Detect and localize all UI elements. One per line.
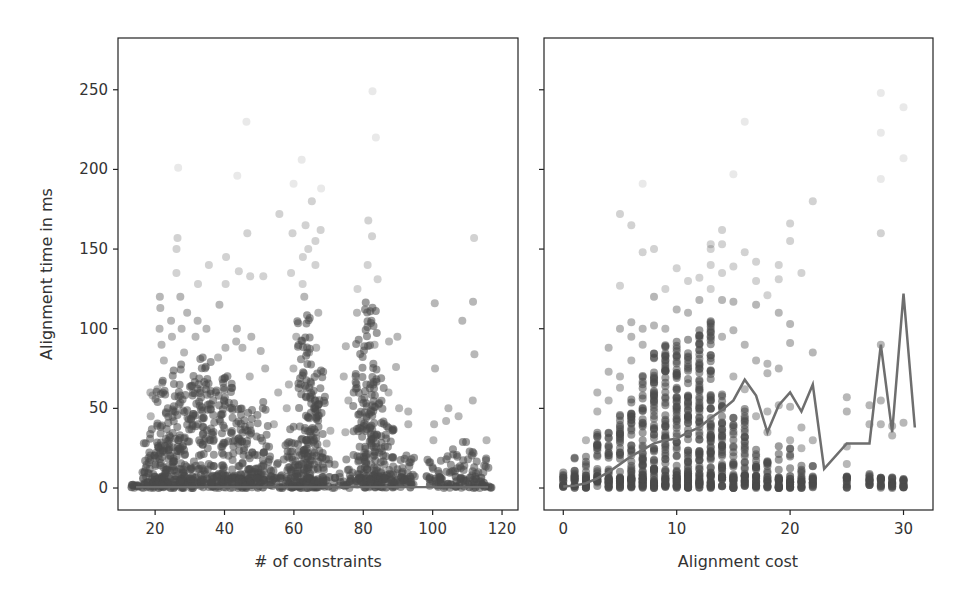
outlier-point bbox=[718, 240, 726, 248]
data-point bbox=[364, 317, 372, 325]
outlier-point bbox=[786, 339, 794, 347]
outlier-point bbox=[752, 277, 760, 285]
data-point bbox=[152, 395, 160, 403]
data-point bbox=[707, 357, 715, 365]
outlier-point bbox=[233, 172, 241, 180]
data-point bbox=[605, 434, 613, 442]
data-point bbox=[205, 436, 213, 444]
data-point bbox=[254, 465, 262, 473]
outlier-point bbox=[673, 306, 681, 314]
data-point bbox=[695, 405, 703, 413]
outlier-point bbox=[707, 261, 715, 269]
data-point bbox=[352, 378, 360, 386]
data-point bbox=[616, 476, 624, 484]
outlier-point bbox=[222, 280, 230, 288]
outlier-point bbox=[763, 408, 771, 416]
data-point bbox=[616, 433, 624, 441]
data-point bbox=[245, 452, 253, 460]
outlier-point bbox=[176, 293, 184, 301]
outlier-point bbox=[300, 293, 308, 301]
data-point bbox=[350, 388, 358, 396]
data-point bbox=[571, 471, 579, 479]
outlier-point bbox=[797, 269, 805, 277]
outlier-point bbox=[729, 326, 737, 334]
data-point bbox=[405, 462, 413, 470]
data-point bbox=[605, 442, 613, 450]
outlier-point bbox=[707, 240, 715, 248]
data-point bbox=[650, 368, 658, 376]
outlier-point bbox=[843, 460, 851, 468]
data-point bbox=[179, 396, 187, 404]
outlier-point bbox=[684, 277, 692, 285]
data-point bbox=[616, 421, 624, 429]
data-point bbox=[389, 454, 397, 462]
data-point bbox=[707, 433, 715, 441]
data-point bbox=[452, 473, 460, 481]
data-point bbox=[786, 464, 794, 472]
outlier-point bbox=[257, 347, 265, 355]
outlier-point bbox=[302, 221, 310, 229]
data-point bbox=[303, 445, 311, 453]
data-point bbox=[650, 457, 658, 465]
data-point bbox=[400, 476, 408, 484]
data-point bbox=[650, 376, 658, 384]
outlier-point bbox=[639, 325, 647, 333]
data-point bbox=[673, 411, 681, 419]
data-point bbox=[752, 446, 760, 454]
outlier-point bbox=[718, 226, 726, 234]
data-point bbox=[189, 389, 197, 397]
right-mean-line bbox=[563, 294, 915, 487]
data-point bbox=[370, 378, 378, 386]
left-scatter-points bbox=[128, 87, 496, 492]
data-point bbox=[707, 471, 715, 479]
data-point bbox=[160, 473, 168, 481]
data-point bbox=[684, 375, 692, 383]
y-tick-label: 50 bbox=[89, 399, 108, 417]
data-point bbox=[639, 457, 647, 465]
outlier-point bbox=[763, 369, 771, 377]
outlier-point bbox=[317, 185, 325, 193]
outlier-point bbox=[786, 237, 794, 245]
data-point bbox=[741, 472, 749, 480]
data-point bbox=[593, 446, 601, 454]
data-point bbox=[302, 412, 310, 420]
outlier-point bbox=[304, 245, 312, 253]
data-point bbox=[319, 430, 327, 438]
outlier-point bbox=[786, 220, 794, 228]
data-point bbox=[763, 460, 771, 468]
outlier-point bbox=[247, 333, 255, 341]
outlier-point bbox=[797, 444, 805, 452]
outlier-point bbox=[639, 180, 647, 188]
data-point bbox=[266, 472, 274, 480]
outlier-point bbox=[718, 333, 726, 341]
data-point bbox=[752, 472, 760, 480]
outlier-point bbox=[259, 272, 267, 280]
outlier-point bbox=[283, 404, 291, 412]
outlier-point bbox=[147, 412, 155, 420]
outlier-point bbox=[809, 197, 817, 205]
outlier-point bbox=[442, 417, 450, 425]
data-point bbox=[158, 379, 166, 387]
outlier-point bbox=[299, 253, 307, 261]
data-point bbox=[382, 435, 390, 443]
data-point bbox=[718, 397, 726, 405]
chart-figure: 050100150200250 20406080100120 # of cons… bbox=[0, 0, 975, 597]
outlier-point bbox=[469, 396, 477, 404]
data-point bbox=[360, 448, 368, 456]
data-point bbox=[707, 397, 715, 405]
outlier-point bbox=[797, 423, 805, 431]
data-point bbox=[153, 388, 161, 396]
outlier-point bbox=[718, 296, 726, 304]
data-point bbox=[661, 399, 669, 407]
outlier-point bbox=[174, 164, 182, 172]
data-point bbox=[310, 465, 318, 473]
data-point bbox=[707, 325, 715, 333]
outlier-point bbox=[298, 156, 306, 164]
data-point bbox=[763, 473, 771, 481]
outlier-point bbox=[627, 318, 635, 326]
data-point bbox=[239, 460, 247, 468]
data-point bbox=[786, 445, 794, 453]
outlier-point bbox=[404, 408, 412, 416]
data-point bbox=[627, 474, 635, 482]
outlier-point bbox=[877, 175, 885, 183]
